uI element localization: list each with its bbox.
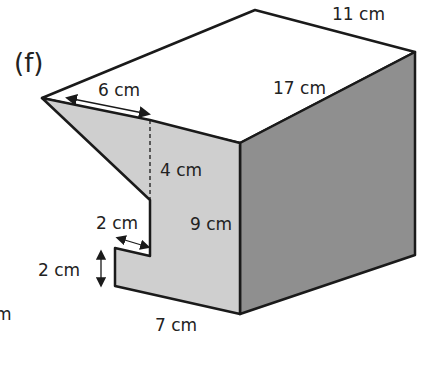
label-slant-top: 6 cm xyxy=(98,80,140,100)
label-top-depth: 17 cm xyxy=(273,78,326,98)
label-top-back: 11 cm xyxy=(332,4,385,24)
figure-label: (f) xyxy=(14,48,43,78)
label-base-width: 7 cm xyxy=(155,315,197,335)
label-notch-width: 2 cm xyxy=(96,213,138,233)
label-cut-off: m xyxy=(0,304,12,324)
arrow-notch-width xyxy=(118,238,148,247)
prism-diagram: (f) 11 cm 17 cm 6 cm 4 cm 9 cm 2 cm 2 cm… xyxy=(0,0,437,381)
label-notch-height: 2 cm xyxy=(38,260,80,280)
label-dashed-height: 4 cm xyxy=(160,160,202,180)
label-total-height: 9 cm xyxy=(190,214,232,234)
